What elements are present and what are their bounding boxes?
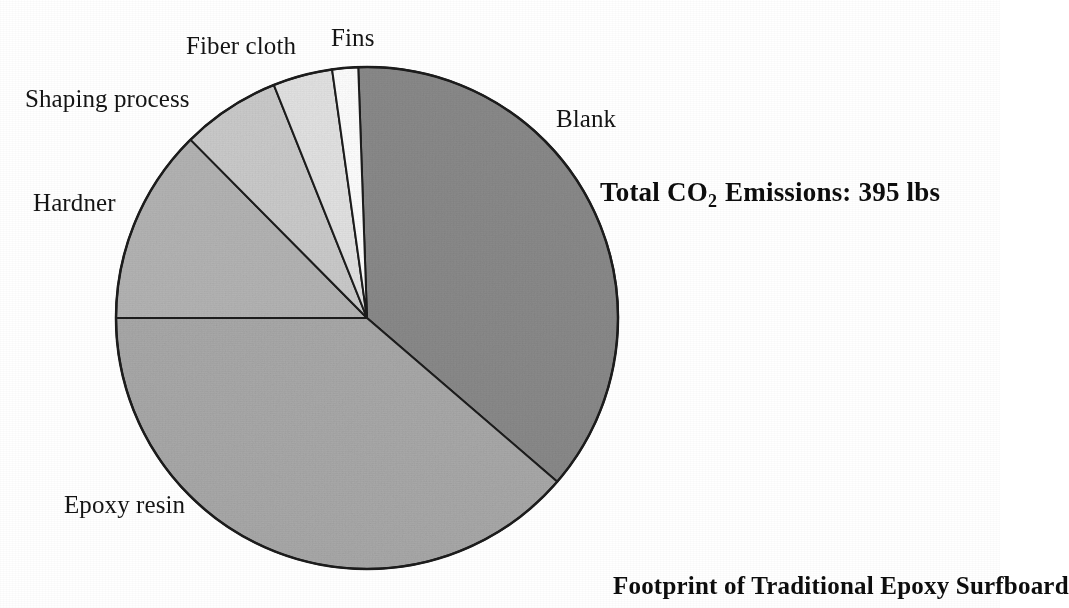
slice-label-epoxy-resin: Epoxy resin bbox=[64, 492, 185, 518]
slice-label-hardner: Hardner bbox=[33, 190, 116, 216]
figure-caption: Footprint of Traditional Epoxy Surfboard bbox=[613, 572, 1069, 600]
total-emissions-subscript: 2 bbox=[708, 191, 718, 211]
total-emissions-value: Emissions: 395 lbs bbox=[718, 177, 940, 207]
slice-label-blank: Blank bbox=[556, 106, 616, 132]
total-emissions-prefix: Total CO bbox=[600, 177, 708, 207]
slice-label-shaping-process: Shaping process bbox=[25, 86, 190, 112]
total-emissions-annotation: Total CO2 Emissions: 395 lbs bbox=[600, 177, 940, 212]
slice-label-fins: Fins bbox=[331, 25, 374, 51]
pie-slices-group bbox=[116, 67, 618, 569]
slice-label-fiber-cloth: Fiber cloth bbox=[186, 33, 296, 59]
